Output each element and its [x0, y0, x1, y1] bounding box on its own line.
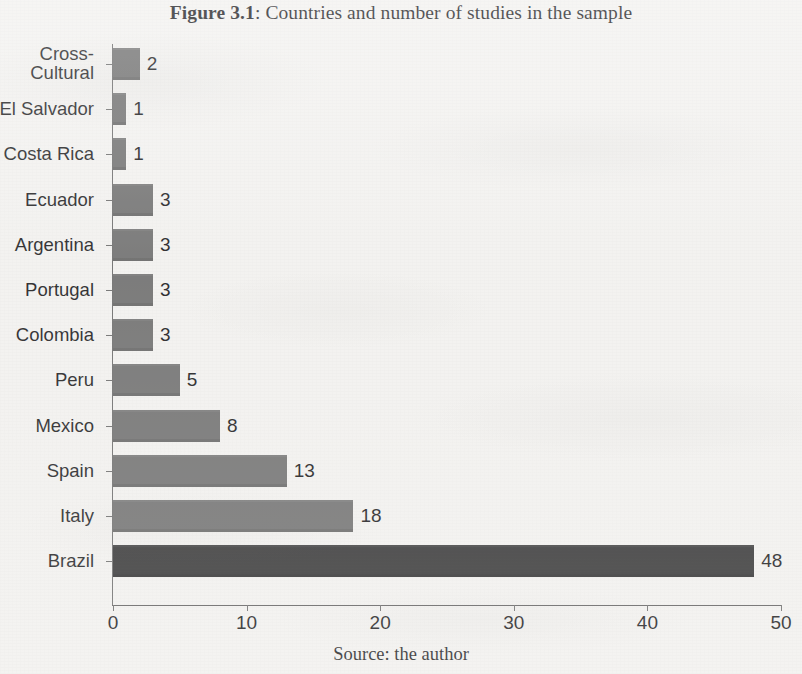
x-axis-tick-label: 40: [617, 612, 677, 634]
source-note: Source: the author: [0, 644, 802, 665]
x-axis-tick-label: 20: [350, 612, 410, 634]
x-axis-tick: [781, 605, 782, 611]
x-axis-tick-label: 0: [83, 612, 143, 634]
figure-container: Figure 3.1: Countries and number of stud…: [0, 0, 802, 674]
x-axis-ticks: 01020304050: [0, 0, 802, 674]
x-axis-tick: [514, 605, 515, 611]
x-axis-tick-label: 10: [217, 612, 277, 634]
x-axis-tick-label: 50: [751, 612, 802, 634]
x-axis-tick-label: 30: [484, 612, 544, 634]
x-axis-tick: [647, 605, 648, 611]
x-axis-tick: [113, 605, 114, 611]
x-axis-tick: [380, 605, 381, 611]
x-axis-tick: [247, 605, 248, 611]
